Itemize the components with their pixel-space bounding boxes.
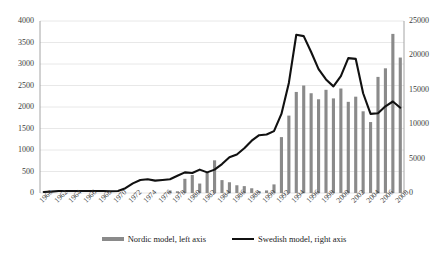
y-axis-left-tick: 2000 — [0, 103, 34, 111]
y-axis-right-tick: 25000 — [409, 17, 429, 25]
chart-plot-area — [0, 0, 448, 256]
y-axis-left-tick: 3500 — [0, 39, 34, 47]
y-axis-left-tick: 500 — [0, 168, 34, 176]
y-axis-left-tick: 3000 — [0, 60, 34, 68]
chart-legend: Nordic model, left axis Swedish model, r… — [0, 234, 448, 244]
y-axis-right-tick: 5000 — [409, 155, 425, 163]
y-axis-right-tick: 20000 — [409, 51, 429, 59]
bar-series-nordic-model — [168, 34, 401, 193]
y-axis-right-tick: 15000 — [409, 86, 429, 94]
bar-swatch-icon — [102, 237, 124, 241]
y-axis-left-tick: 4000 — [0, 17, 34, 25]
y-axis-left-tick: 1500 — [0, 125, 34, 133]
y-axis-left-tick: 2500 — [0, 82, 34, 90]
line-swatch-icon — [232, 238, 254, 240]
chart-container: 05001000150020002500300035004000 0500010… — [0, 0, 448, 256]
legend-item-swedish-model: Swedish model, right axis — [232, 234, 346, 244]
y-axis-left-tick: 0 — [0, 189, 34, 197]
y-axis-right-tick: 10000 — [409, 120, 429, 128]
legend-label-swedish-model: Swedish model, right axis — [258, 234, 346, 244]
legend-label-nordic-model: Nordic model, left axis — [128, 234, 206, 244]
y-axis-left-tick: 1000 — [0, 146, 34, 154]
legend-item-nordic-model: Nordic model, left axis — [102, 234, 206, 244]
